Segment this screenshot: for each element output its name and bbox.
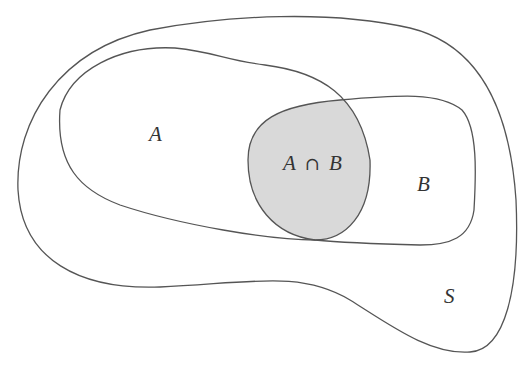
intersection-right-label: B: [329, 151, 342, 175]
set-b-label: B: [417, 172, 430, 196]
set-a-label: A: [147, 122, 162, 146]
intersection-left-label: A: [281, 151, 296, 175]
intersection-operator: ∩: [305, 153, 320, 174]
intersection-label: A ∩ B: [281, 151, 342, 175]
venn-diagram: A A ∩ B B S: [0, 0, 526, 369]
universe-s-label: S: [444, 284, 455, 308]
